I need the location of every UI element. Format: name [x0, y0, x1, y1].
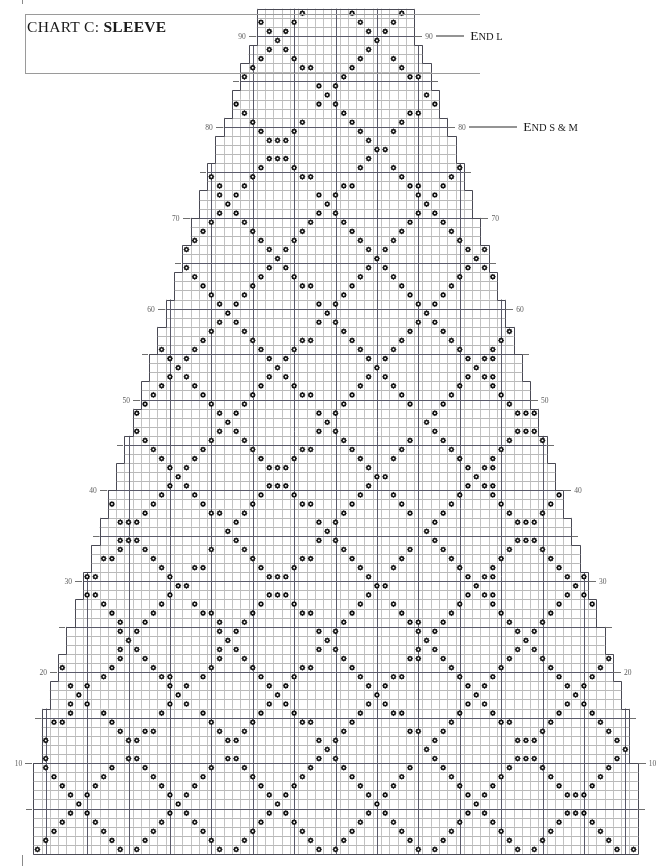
axis-tick-right-35	[572, 536, 578, 537]
axis-tick-right-45	[548, 445, 554, 446]
chart-c-sleeve: CHART C: SLEEVE 102030405060708090102030…	[0, 0, 671, 866]
axis-tick-right-70	[481, 218, 488, 219]
title-prefix: CHART C:	[27, 18, 99, 35]
axis-tick-right-50	[531, 400, 538, 401]
axis-tick-right-85	[432, 81, 438, 82]
axis-tick-right-25	[606, 627, 612, 628]
axis-label-left-70: 70	[172, 213, 180, 222]
page-edge-mark-top	[22, 0, 23, 4]
axis-label-right-80: 80	[458, 122, 466, 131]
axis-label-left-80: 80	[205, 122, 213, 131]
axis-tick-left-35	[93, 536, 99, 537]
axis-tick-left-5	[26, 809, 32, 810]
axis-label-left-30: 30	[64, 577, 72, 586]
axis-label-right-40: 40	[574, 486, 582, 495]
axis-tick-left-30	[75, 581, 82, 582]
axis-tick-right-20	[614, 672, 621, 673]
axis-tick-left-60	[158, 309, 165, 310]
annotation-rule-end-s-m	[469, 126, 517, 127]
axis-label-right-70: 70	[491, 213, 499, 222]
axis-tick-left-75	[200, 172, 206, 173]
axis-label-left-40: 40	[89, 486, 97, 495]
axis-tick-left-40	[100, 490, 107, 491]
annotation-end-l: END L	[470, 28, 502, 44]
axis-tick-left-25	[59, 627, 65, 628]
axis-label-right-90: 90	[425, 31, 433, 40]
axis-tick-right-55	[523, 354, 529, 355]
axis-label-left-90: 90	[238, 31, 246, 40]
axis-tick-left-15	[35, 718, 41, 719]
axis-label-left-20: 20	[40, 668, 48, 677]
title-chart-name: SLEEVE	[103, 18, 166, 35]
axis-tick-left-85	[233, 81, 239, 82]
axis-tick-left-80	[216, 127, 223, 128]
axis-tick-left-90	[249, 36, 256, 37]
annotation-rule-end-l	[436, 35, 464, 36]
axis-tick-right-30	[589, 581, 596, 582]
axis-label-right-20: 20	[624, 668, 632, 677]
axis-tick-left-10	[25, 763, 32, 764]
annotation-smallcaps: ND S & M	[532, 122, 578, 133]
annotation-smallcaps: ND L	[478, 31, 502, 42]
axis-tick-right-10	[639, 763, 646, 764]
axis-label-right-10: 10	[649, 759, 657, 768]
page-edge-mark-bottom	[22, 855, 23, 866]
annotation-initial: E	[470, 28, 478, 43]
axis-tick-left-50	[133, 400, 140, 401]
axis-tick-right-60	[506, 309, 513, 310]
axis-tick-right-90	[415, 36, 422, 37]
axis-tick-right-5	[639, 809, 645, 810]
axis-tick-right-80	[448, 127, 455, 128]
axis-tick-right-65	[490, 263, 496, 264]
axis-tick-right-15	[630, 718, 636, 719]
axis-label-right-60: 60	[516, 304, 524, 313]
page-title: CHART C: SLEEVE	[27, 18, 166, 36]
axis-label-left-60: 60	[147, 304, 155, 313]
axis-label-right-30: 30	[599, 577, 607, 586]
axis-tick-left-45	[117, 445, 123, 446]
axis-tick-right-40	[564, 490, 571, 491]
axis-tick-right-75	[465, 172, 471, 173]
axis-label-left-50: 50	[122, 395, 130, 404]
axis-tick-left-20	[50, 672, 57, 673]
annotation-initial: E	[523, 119, 531, 134]
axis-label-left-10: 10	[15, 759, 23, 768]
axis-tick-left-55	[142, 354, 148, 355]
axis-label-right-50: 50	[541, 395, 549, 404]
axis-tick-left-70	[183, 218, 190, 219]
axis-tick-left-65	[175, 263, 181, 264]
annotation-end-s-m: END S & M	[523, 119, 578, 135]
